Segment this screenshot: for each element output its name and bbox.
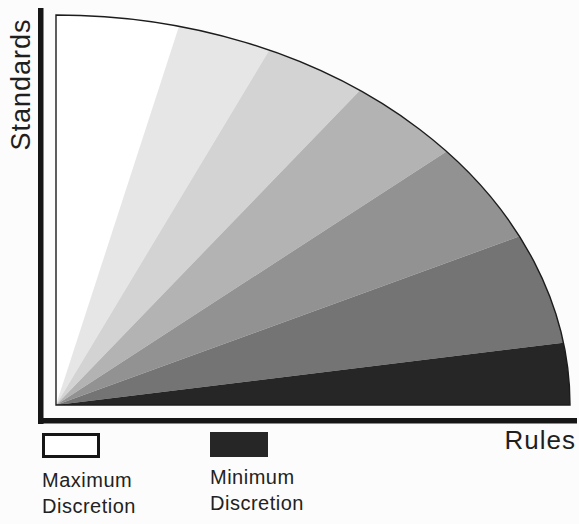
minimum-discretion-label-line1: Minimum — [210, 464, 304, 490]
minimum-discretion-label-line2: Discretion — [210, 490, 304, 516]
fan-wedges — [56, 15, 570, 405]
maximum-discretion-swatch — [42, 433, 100, 458]
legend: Maximum Discretion Minimum Discretion — [0, 428, 420, 524]
maximum-discretion-label: Maximum Discretion — [42, 467, 136, 519]
y-axis-line — [38, 8, 44, 424]
maximum-discretion-label-line2: Discretion — [42, 493, 136, 519]
x-axis-line — [38, 418, 577, 424]
fan-chart-figure: Standards Rules Maximum Discretion Minim… — [0, 0, 579, 524]
legend-item-maximum-discretion: Maximum Discretion — [42, 428, 136, 519]
legend-item-minimum-discretion: Minimum Discretion — [210, 428, 304, 516]
x-axis-label: Rules — [505, 425, 576, 456]
minimum-discretion-label: Minimum Discretion — [210, 464, 304, 516]
minimum-discretion-swatch — [210, 432, 268, 457]
maximum-discretion-label-line1: Maximum — [42, 467, 136, 493]
